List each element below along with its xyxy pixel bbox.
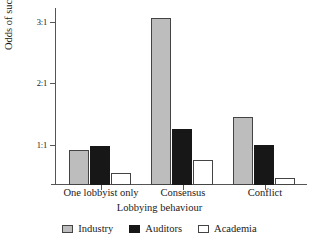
- x-axis-title: Lobbying behaviour: [0, 203, 319, 214]
- legend-label-academia: Academia: [214, 224, 257, 235]
- y-tick-label-3: 3:1: [37, 17, 47, 26]
- y-tick-mark-2: [50, 83, 55, 84]
- bar-group-conflict: [233, 8, 299, 185]
- plot-area: 3:1 2:1 1:1: [55, 8, 303, 185]
- y-axis-title: Odds of success: [4, 0, 15, 50]
- x-category-label-2: Conflict: [248, 188, 282, 199]
- legend-label-industry: Industry: [78, 224, 113, 235]
- bar-auditors-1: [172, 129, 192, 185]
- legend-swatch-academia: [198, 225, 209, 233]
- bar-industry-0: [69, 150, 89, 185]
- y-tick-mark-1: [50, 145, 55, 146]
- y-tick-label-2: 2:1: [37, 79, 47, 88]
- y-tick-mark-3: [50, 22, 55, 23]
- legend-item-industry: Industry: [62, 224, 113, 235]
- bar-academia-1: [193, 160, 213, 185]
- y-axis-line: [55, 8, 56, 185]
- legend-item-academia: Academia: [198, 224, 257, 235]
- bar-industry-2: [233, 117, 253, 185]
- chart-legend: Industry Auditors Academia: [0, 224, 319, 235]
- legend-label-auditors: Auditors: [145, 224, 182, 235]
- bar-academia-2: [275, 178, 295, 185]
- bar-academia-0: [111, 173, 131, 185]
- legend-swatch-industry: [62, 225, 73, 233]
- x-category-label-1: Consensus: [161, 188, 206, 199]
- bar-auditors-0: [90, 146, 110, 185]
- legend-swatch-auditors: [129, 225, 140, 233]
- bar-group-consensus: [151, 8, 217, 185]
- bar-industry-1: [151, 18, 171, 185]
- legend-item-auditors: Auditors: [129, 224, 182, 235]
- bar-auditors-2: [254, 145, 274, 185]
- y-tick-label-1: 1:1: [37, 141, 47, 150]
- odds-of-success-bar-chart: Odds of success 3:1 2:1 1:1: [0, 0, 319, 252]
- x-category-label-0: One lobbyist only: [63, 188, 138, 199]
- bar-group-one-lobbyist-only: [69, 8, 135, 185]
